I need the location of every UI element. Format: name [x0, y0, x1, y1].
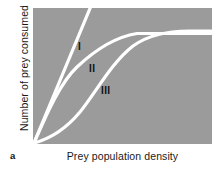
panel-letter: a: [10, 150, 15, 161]
curve-type-ii: [34, 34, 211, 144]
curve-label-i: I: [78, 42, 81, 52]
curves-svg: [33, 8, 212, 144]
plot-area: I II III: [33, 8, 212, 144]
x-axis-label: Prey population density: [33, 150, 212, 162]
curve-label-ii: II: [89, 64, 95, 74]
functional-response-figure: I II III Number of prey consumed Prey po…: [0, 0, 222, 170]
y-axis-label: Number of prey consumed: [18, 0, 30, 138]
curve-label-iii: III: [101, 86, 111, 96]
